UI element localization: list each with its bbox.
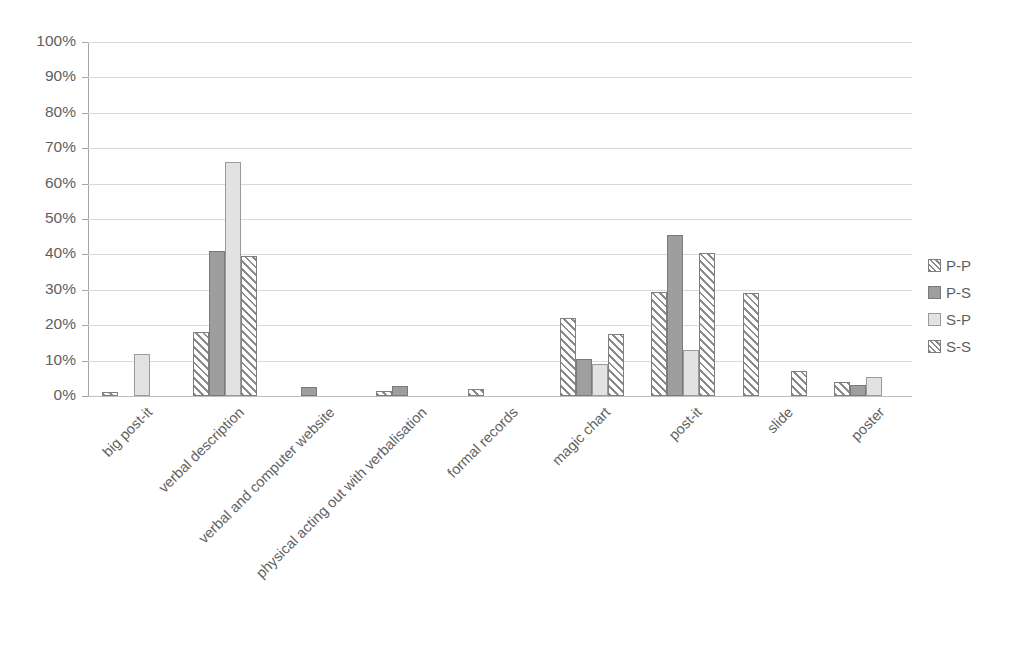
legend-item-s-s[interactable]: S-S: [928, 333, 971, 360]
hatch-swatch: [928, 259, 941, 272]
legend-label: S-P: [946, 311, 971, 328]
y-tick-label-80: 80%: [0, 103, 76, 121]
bar-p-p-0: [102, 392, 118, 396]
legend-label: P-S: [946, 284, 971, 301]
bar-s-s-1: [241, 256, 257, 396]
bar-s-p-0: [134, 354, 150, 396]
bar-p-p-4: [468, 389, 484, 396]
y-tick-label-100: 100%: [0, 32, 76, 50]
legend-item-p-s[interactable]: P-S: [928, 279, 971, 306]
bar-s-p-8: [866, 377, 882, 396]
bar-s-p-5: [592, 364, 608, 396]
dark-gray-swatch: [928, 286, 941, 299]
bar-p-p-7: [743, 293, 759, 396]
legend-label: S-S: [946, 338, 971, 355]
x-axis-label-6: post-it: [665, 404, 704, 443]
bar-p-s-5: [576, 359, 592, 396]
bar-group: [468, 42, 532, 396]
legend-item-p-p[interactable]: P-P: [928, 252, 971, 279]
bar-s-s-6: [699, 253, 715, 396]
y-tick-label-60: 60%: [0, 174, 76, 192]
x-axis-label-0: big post-it: [99, 404, 155, 460]
bar-group: [651, 42, 715, 396]
y-tick-label-90: 90%: [0, 67, 76, 85]
y-tick-label-70: 70%: [0, 138, 76, 156]
bar-p-p-8: [834, 382, 850, 396]
legend-label: P-P: [946, 257, 971, 274]
bar-chart: 0%10%20%30%40%50%60%70%80%90%100% big po…: [0, 0, 1009, 656]
x-axis-label-8: poster: [848, 404, 888, 444]
bar-p-p-3: [376, 391, 392, 396]
y-tick-label-10: 10%: [0, 351, 76, 369]
y-tick-label-20: 20%: [0, 315, 76, 333]
bar-p-p-6: [651, 292, 667, 396]
bar-p-s-8: [850, 385, 866, 396]
bar-p-s-6: [667, 235, 683, 396]
bar-p-s-1: [209, 251, 225, 396]
light-gray-swatch: [928, 313, 941, 326]
x-axis-label-1: verbal description: [155, 404, 247, 496]
chart-legend: P-PP-SS-PS-S: [928, 252, 971, 360]
bar-p-p-5: [560, 318, 576, 396]
y-tick-label-50: 50%: [0, 209, 76, 227]
bar-group: [102, 42, 166, 396]
bar-group: [834, 42, 898, 396]
x-axis-label-5: magic chart: [549, 404, 613, 468]
bar-group: [285, 42, 349, 396]
bar-p-s-3: [392, 386, 408, 396]
hatch-swatch: [928, 340, 941, 353]
bar-group: [376, 42, 440, 396]
bar-p-p-1: [193, 332, 209, 396]
bar-s-p-6: [683, 350, 699, 396]
x-axis-label-7: slide: [764, 404, 796, 436]
bar-s-s-7: [791, 371, 807, 396]
bar-s-p-1: [225, 162, 241, 396]
legend-item-s-p[interactable]: S-P: [928, 306, 971, 333]
x-axis-label-3: physical acting out with verbalisation: [253, 404, 430, 581]
bar-group: [743, 42, 807, 396]
plot-area: [88, 42, 912, 396]
y-tick-label-30: 30%: [0, 280, 76, 298]
y-tick-label-40: 40%: [0, 244, 76, 262]
bar-s-s-5: [608, 334, 624, 396]
bar-p-s-2: [301, 387, 317, 396]
y-tick-label-0: 0%: [0, 386, 76, 404]
gridline-0: [88, 396, 912, 397]
bar-group: [560, 42, 624, 396]
x-axis-label-4: formal records: [444, 404, 521, 481]
bar-group: [193, 42, 257, 396]
